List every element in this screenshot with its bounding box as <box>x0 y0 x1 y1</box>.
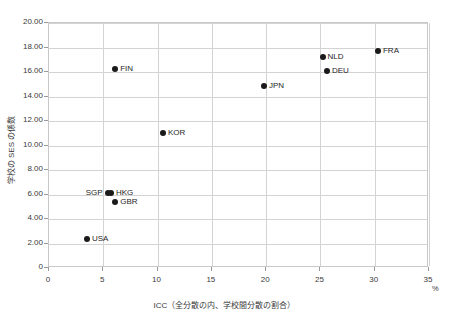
y-tick-label: 12.00 <box>3 115 43 124</box>
x-tick-label: 0 <box>33 275 63 284</box>
gridline-vertical <box>103 23 104 266</box>
x-tick-label: 15 <box>196 275 226 284</box>
gridline-horizontal <box>49 146 427 147</box>
x-tick-mark <box>265 267 266 271</box>
x-tick-label: 25 <box>304 275 334 284</box>
x-tick-mark <box>428 267 429 271</box>
data-point-gbr <box>112 199 118 205</box>
y-tick-label: 2.00 <box>3 238 43 247</box>
x-tick-mark <box>48 267 49 271</box>
y-tick-label: 16.00 <box>3 66 43 75</box>
gridline-horizontal <box>49 48 427 49</box>
x-tick-label: 20 <box>250 275 280 284</box>
y-tick-label: 20.00 <box>3 17 43 26</box>
data-point-label-jpn: JPN <box>269 82 284 90</box>
y-tick-label: 14.00 <box>3 91 43 100</box>
data-point-label-fra: FRA <box>383 47 399 55</box>
gridline-horizontal <box>49 244 427 245</box>
data-point-nld <box>320 54 326 60</box>
gridline-vertical <box>158 23 159 266</box>
x-tick-mark <box>102 267 103 271</box>
x-tick-label: 10 <box>142 275 172 284</box>
x-tick-mark <box>319 267 320 271</box>
gridline-vertical <box>429 23 430 266</box>
gridline-vertical <box>375 23 376 266</box>
gridline-horizontal <box>49 72 427 73</box>
x-tick-mark <box>374 267 375 271</box>
y-tick-label: 6.00 <box>3 189 43 198</box>
gridline-vertical <box>266 23 267 266</box>
data-point-usa <box>84 236 90 242</box>
gridline-horizontal <box>49 121 427 122</box>
x-tick-mark <box>157 267 158 271</box>
gridline-horizontal <box>49 23 427 24</box>
x-tick-label: 5 <box>87 275 117 284</box>
y-tick-label: 8.00 <box>3 164 43 173</box>
x-axis-title: ICC（全分散の内、学校間分散の割合） <box>0 299 449 310</box>
data-point-label-gbr: GBR <box>120 198 137 206</box>
y-tick-label: 18.00 <box>3 42 43 51</box>
data-point-fra <box>375 48 381 54</box>
data-point-jpn <box>261 83 267 89</box>
y-tick-label: 10.00 <box>3 140 43 149</box>
x-tick-mark <box>211 267 212 271</box>
data-point-deu <box>324 68 330 74</box>
data-point-kor <box>160 130 166 136</box>
data-point-label-sgp: SGP <box>86 189 103 197</box>
gridline-horizontal <box>49 170 427 171</box>
data-point-label-deu: DEU <box>332 67 349 75</box>
plot-area: USASGPHKGGBRFINKORJPNNLDDEUFRA <box>48 22 428 267</box>
x-tick-label: 35 <box>413 275 443 284</box>
data-point-label-hkg: HKG <box>116 189 133 197</box>
y-axis-title-text: 学校の SES の係数 <box>5 116 16 184</box>
gridline-horizontal <box>49 97 427 98</box>
data-point-label-kor: KOR <box>168 129 185 137</box>
y-tick-label: 4.00 <box>3 213 43 222</box>
gridline-vertical <box>212 23 213 266</box>
data-point-label-usa: USA <box>92 235 108 243</box>
scatter-chart: 学校の SES の係数 02.004.006.008.0010.0012.001… <box>0 0 449 323</box>
data-point-label-fin: FIN <box>120 65 133 73</box>
x-tick-label: 30 <box>359 275 389 284</box>
x-axis-unit-label: % <box>432 284 439 293</box>
data-point-label-nld: NLD <box>328 53 344 61</box>
y-tick-label: 0 <box>3 262 43 271</box>
gridline-horizontal <box>49 219 427 220</box>
